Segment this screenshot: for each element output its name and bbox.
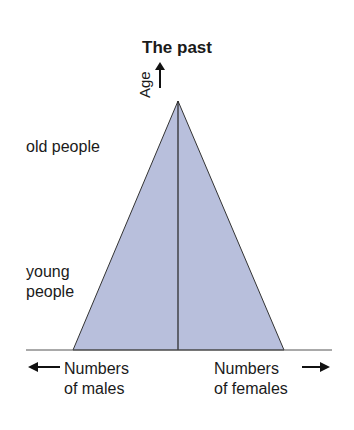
females-axis-label: Numbers of females	[214, 359, 288, 399]
females-line2: of females	[214, 379, 288, 399]
age-arrow-icon	[155, 62, 165, 88]
males-line1: Numbers	[64, 359, 129, 379]
males-line2: of males	[64, 379, 129, 399]
males-axis-label: Numbers of males	[64, 359, 129, 399]
people-line: people	[26, 282, 74, 302]
young-people-label: young people	[26, 262, 74, 302]
left-arrow-icon	[28, 362, 60, 372]
diagram-title: The past	[0, 38, 354, 58]
young-line: young	[26, 262, 74, 282]
right-arrow-icon	[302, 362, 330, 372]
females-line1: Numbers	[214, 359, 288, 379]
age-axis-label: Age	[136, 71, 153, 98]
old-people-label: old people	[26, 137, 100, 157]
population-pyramid	[0, 0, 354, 430]
